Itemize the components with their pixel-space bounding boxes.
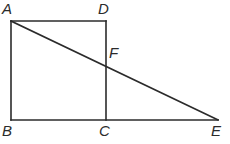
geometry-canvas	[0, 0, 230, 144]
vertex-label-E: E	[211, 123, 221, 138]
geometry-figure: A D F B C E	[0, 0, 230, 144]
vertex-label-D: D	[98, 1, 109, 16]
vertex-label-A: A	[2, 1, 12, 16]
vertex-label-C: C	[99, 123, 110, 138]
vertex-label-B: B	[2, 123, 12, 138]
vertex-label-F: F	[109, 45, 118, 60]
